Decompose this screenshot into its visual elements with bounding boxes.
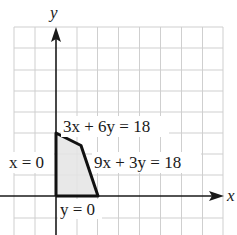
- y-axis-label: y: [48, 3, 58, 22]
- x-axis-label: x: [226, 186, 235, 205]
- feasible-region-graph: y x 3x + 6y = 18 9x + 3y = 18 x = 0 y = …: [0, 0, 237, 235]
- label-3x-6y-18: 3x + 6y = 18: [63, 117, 150, 136]
- label-9x-3y-18: 9x + 3y = 18: [94, 153, 181, 172]
- label-y-equals-0: y = 0: [60, 200, 95, 219]
- x-axis: [0, 191, 224, 201]
- label-x-equals-0: x = 0: [9, 153, 44, 172]
